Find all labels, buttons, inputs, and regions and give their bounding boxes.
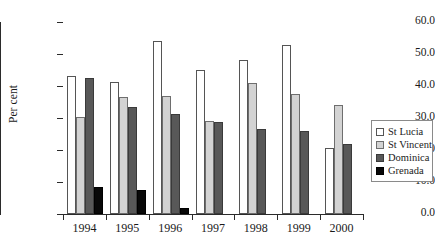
bar <box>94 187 103 214</box>
bar-chart: Per cent 0.010.020.030.040.050.060.0 199… <box>0 0 435 251</box>
legend-label: St Lucia <box>388 126 423 137</box>
bar <box>128 107 137 214</box>
x-tick-mark <box>234 215 235 220</box>
bar-group <box>321 22 364 214</box>
legend-swatch-icon <box>376 167 384 175</box>
y-tick-mark <box>57 118 63 119</box>
bar <box>110 82 119 214</box>
bar <box>85 78 94 214</box>
legend-swatch-icon <box>376 141 384 149</box>
bar-group <box>107 22 150 214</box>
x-tick-mark <box>149 215 150 220</box>
bar <box>239 60 248 214</box>
bar <box>180 208 189 214</box>
y-tick-mark <box>57 22 63 23</box>
bar <box>214 122 223 214</box>
bar <box>153 41 162 214</box>
bar <box>334 105 343 214</box>
legend-swatch-icon <box>376 154 384 162</box>
x-tick-mark <box>277 215 278 220</box>
y-tick-label: 60.0 <box>383 15 435 27</box>
legend-label: Dominica <box>388 152 429 163</box>
x-tick-mark <box>363 215 364 220</box>
bar <box>196 70 205 214</box>
bar <box>282 45 291 214</box>
legend-swatch-icon <box>376 128 384 136</box>
bar <box>137 190 146 214</box>
y-tick-label: 50.0 <box>383 47 435 59</box>
bar <box>205 121 214 214</box>
bar-group <box>150 22 193 214</box>
x-tick-mark <box>192 215 193 220</box>
y-tick-label: 40.0 <box>383 79 435 91</box>
legend-item: St Lucia <box>376 125 429 138</box>
y-tick-mark <box>57 54 63 55</box>
bar <box>67 76 76 214</box>
x-axis-line <box>63 214 364 215</box>
bar <box>325 148 334 214</box>
bar <box>343 144 352 214</box>
y-axis-line <box>0 22 1 215</box>
chart-legend: St LuciaSt VincentDominicaGrenada <box>371 120 433 182</box>
bar-group <box>235 22 278 214</box>
bar-group <box>64 22 107 214</box>
bar <box>119 97 128 214</box>
bar <box>291 94 300 214</box>
x-tick-label: 2000 <box>314 222 370 234</box>
y-tick-mark <box>57 182 63 183</box>
bar <box>171 114 180 214</box>
legend-label: Grenada <box>388 165 424 176</box>
bar <box>248 83 257 214</box>
bar <box>162 96 171 214</box>
legend-item: Dominica <box>376 151 429 164</box>
legend-item: St Vincent <box>376 138 429 151</box>
y-axis-title: Per cent <box>7 64 19 144</box>
bar-group <box>278 22 321 214</box>
y-tick-mark <box>57 86 63 87</box>
y-tick-mark <box>57 150 63 151</box>
x-tick-mark <box>320 215 321 220</box>
y-tick-label: 0.0 <box>383 207 435 219</box>
legend-item: Grenada <box>376 164 429 177</box>
x-tick-mark <box>106 215 107 220</box>
x-tick-mark <box>63 215 64 220</box>
bar <box>257 129 266 214</box>
bar <box>76 117 85 214</box>
plot-bars <box>64 22 364 214</box>
bar <box>300 131 309 214</box>
bar-group <box>193 22 236 214</box>
legend-label: St Vincent <box>388 139 432 150</box>
